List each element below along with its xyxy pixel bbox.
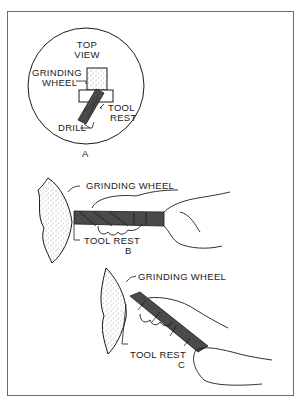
panel-a-grinding-wheel-label-2: WHEEL xyxy=(42,78,77,88)
grinding-wheel-topview xyxy=(87,68,107,90)
panel-a-title-line2: VIEW xyxy=(72,50,102,60)
left-hand-b xyxy=(92,190,178,208)
panel-c-angled-view xyxy=(101,268,272,385)
panel-c-grinding-wheel-label: GRINDING WHEEL xyxy=(138,272,226,282)
panel-a-tool-rest-label-2: REST xyxy=(110,113,137,123)
drill-c xyxy=(130,292,208,352)
panel-c-caption: C xyxy=(178,360,185,370)
drill-grinding-illustration xyxy=(0,0,302,406)
panel-a-caption: A xyxy=(82,149,89,159)
panel-b-grinding-wheel-label: GRINDING WHEEL xyxy=(86,181,174,191)
panel-a-drill-label: DRILL xyxy=(58,123,86,133)
grinding-wheel-b xyxy=(38,178,72,263)
right-hand-b xyxy=(164,192,230,248)
right-hand-c xyxy=(194,348,272,385)
panel-b-caption: B xyxy=(125,246,132,256)
